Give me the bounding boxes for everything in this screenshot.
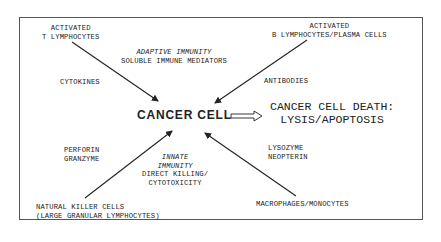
death-line1: CANCER CELL DEATH: <box>270 101 394 114</box>
adaptive-immunity-label: ADAPTIVE IMMUNITY SOLUBLE IMMUNE MEDIATO… <box>121 48 227 65</box>
arrow-macrophages <box>205 133 296 196</box>
nk-line2: (LARGE GRANULAR LYMPHOCYTES) <box>36 212 160 221</box>
nk-line1: NATURAL KILLER CELLS <box>36 203 160 212</box>
death-line2: LYSIS/APOPTOSIS <box>270 114 394 127</box>
cytokines-label: CYTOKINES <box>60 78 100 87</box>
adaptive-subtitle: SOLUBLE IMMUNE MEDIATORS <box>121 57 227 66</box>
b-lymph-line1: ACTIVATED <box>272 22 387 31</box>
nk-cells-label: NATURAL KILLER CELLS (LARGE GRANULAR LYM… <box>36 203 160 220</box>
neopterin-text: NEOPTERIN <box>268 153 308 162</box>
innate-immunity-label: INNATE IMMUNITY DIRECT KILLING/ CYTOTOXI… <box>142 153 208 187</box>
t-lymph-line1: ACTIVATED <box>42 24 99 33</box>
innate-line1: INNATE <box>142 153 208 162</box>
lysozyme-text: LYSOZYME <box>268 144 308 153</box>
b-lymph-line2: B LYMPHOCYTES/PLASMA CELLS <box>272 31 387 40</box>
adaptive-title: ADAPTIVE IMMUNITY <box>121 48 227 57</box>
innate-sub-line1: DIRECT KILLING/ <box>142 170 208 179</box>
arrow-b-lymphocytes <box>215 40 307 103</box>
t-lymph-line2: T LYMPHOCYTES <box>42 33 99 42</box>
hollow-arrow-to-death <box>231 111 262 121</box>
t-lymphocytes-label: ACTIVATED T LYMPHOCYTES <box>42 24 99 41</box>
b-lymphocytes-label: ACTIVATED B LYMPHOCYTES/PLASMA CELLS <box>272 22 387 39</box>
perforin-granzyme-label: PERFORIN GRANZYME <box>64 146 99 163</box>
innate-line2: IMMUNITY <box>142 162 208 171</box>
antibodies-label: ANTIBODIES <box>264 77 308 86</box>
perforin-text: PERFORIN <box>64 146 99 155</box>
granzyme-text: GRANZYME <box>64 155 99 164</box>
lysozyme-neopterin-label: LYSOZYME NEOPTERIN <box>268 144 308 161</box>
cancer-cell-label: CANCER CELL <box>137 108 232 122</box>
innate-sub-line2: CYTOTOXICITY <box>142 179 208 188</box>
macrophages-label: MACROPHAGES/MONOCYTES <box>256 200 349 209</box>
cancer-cell-death-label: CANCER CELL DEATH: LYSIS/APOPTOSIS <box>270 101 394 126</box>
